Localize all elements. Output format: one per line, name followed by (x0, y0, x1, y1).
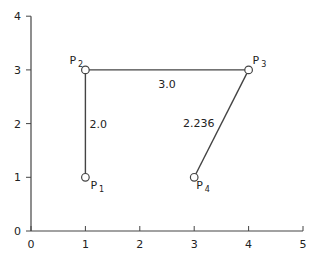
edge-distance-label: 2.0 (89, 118, 107, 131)
y-tick-label: 2 (14, 118, 21, 131)
edges: 2.03.02.236 (85, 70, 248, 177)
axes: 01234501234 (14, 10, 307, 251)
x-tick-label: 4 (245, 238, 252, 251)
point-label-base: P (90, 179, 97, 192)
y-tick-label: 1 (14, 171, 21, 184)
point-label-base: P (196, 179, 203, 192)
point-label-subscript: 1 (99, 185, 104, 194)
point-p2-label: P2 (69, 54, 83, 69)
edge-distance-label: 2.236 (183, 117, 215, 130)
x-tick-label: 5 (300, 238, 307, 251)
x-tick-label: 1 (82, 238, 89, 251)
y-tick-label: 0 (14, 225, 21, 238)
path-diagram: 01234501234 2.03.02.236 P1P2P3P4 (0, 0, 315, 263)
x-tick-label: 3 (191, 238, 198, 251)
x-tick-label: 0 (28, 238, 35, 251)
x-tick-label: 2 (136, 238, 143, 251)
y-tick-label: 4 (14, 10, 21, 23)
point-p1-label: P1 (90, 179, 104, 194)
point-label-base: P (69, 54, 76, 67)
point-label-subscript: 4 (205, 185, 210, 194)
point-label-subscript: 3 (261, 60, 266, 69)
point-p1-marker (82, 174, 90, 182)
y-tick-label: 3 (14, 64, 21, 77)
point-label-base: P (253, 54, 260, 67)
edge-distance-label: 3.0 (158, 78, 176, 91)
point-p4-label: P4 (196, 179, 210, 194)
point-label-subscript: 2 (78, 60, 83, 69)
point-p3-label: P3 (253, 54, 267, 69)
point-p3-marker (245, 66, 253, 74)
